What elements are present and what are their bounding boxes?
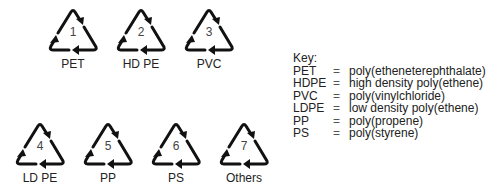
recycling-symbol: 6PS bbox=[150, 121, 202, 183]
key-entry-hdpe: HDPE = high density poly(ethene) bbox=[293, 77, 486, 90]
plastic-label: PVC bbox=[163, 57, 255, 71]
resin-code: 7 bbox=[218, 139, 270, 153]
recycling-symbol: 3PVC bbox=[183, 7, 235, 69]
key-equals: = bbox=[333, 102, 349, 115]
key-entry-ps: PS = poly(styrene) bbox=[293, 127, 486, 140]
key-meaning: poly(styrene) bbox=[349, 127, 418, 140]
recycling-symbol: 7Others bbox=[218, 121, 270, 183]
resin-code: 1 bbox=[47, 25, 99, 39]
recycling-symbol: 4LD PE bbox=[14, 121, 66, 183]
recycling-symbol: 1PET bbox=[47, 7, 99, 69]
key-meaning: high density poly(ethene) bbox=[349, 77, 483, 90]
key-abbr: PS bbox=[293, 127, 333, 140]
key-title: Key: bbox=[293, 52, 486, 65]
resin-code: 3 bbox=[183, 25, 235, 39]
resin-code: 5 bbox=[82, 139, 134, 153]
resin-code: 4 bbox=[14, 139, 66, 153]
key-abbr: LDPE bbox=[293, 102, 333, 115]
plastic-label: Others bbox=[198, 171, 290, 185]
resin-code: 6 bbox=[150, 139, 202, 153]
recycling-symbol: 5PP bbox=[82, 121, 134, 183]
key-abbr: HDPE bbox=[293, 77, 333, 90]
key-legend: Key: PET = poly(etheneterephthalate) HDP… bbox=[293, 52, 486, 140]
recycling-symbol: 2HD PE bbox=[115, 7, 167, 69]
resin-code: 2 bbox=[115, 25, 167, 39]
key-equals: = bbox=[333, 127, 349, 140]
key-equals: = bbox=[333, 77, 349, 90]
key-meaning: low density poly(ethene) bbox=[349, 102, 478, 115]
key-entry-ldpe: LDPE = low density poly(ethene) bbox=[293, 102, 486, 115]
